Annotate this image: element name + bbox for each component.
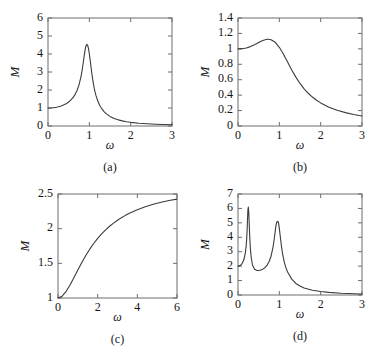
panel-caption: (b) <box>293 160 307 174</box>
plot-frame <box>58 194 177 298</box>
x-tick-label: 0 <box>45 128 51 142</box>
x-tick-label: 1 <box>276 297 282 311</box>
panel-caption: (a) <box>103 160 116 174</box>
x-axis-label: ω <box>106 138 114 152</box>
x-tick-label: 0 <box>235 297 241 311</box>
plot-area-a: 01230123456ωM(a) <box>0 0 190 177</box>
y-tick-label: 2 <box>47 220 53 234</box>
y-tick-label: 6 <box>37 10 43 24</box>
x-tick-label: 1 <box>276 128 282 142</box>
x-tick-label: 2 <box>318 128 324 142</box>
y-tick-label: 0 <box>227 287 233 301</box>
x-tick-label: 3 <box>359 297 365 311</box>
y-axis-label: M <box>197 238 212 251</box>
data-curve <box>48 44 172 124</box>
chart-panel-c: 024611.522.5ωM(c) <box>0 176 190 353</box>
y-tick-label: 3 <box>37 64 43 78</box>
y-tick-label: 2.5 <box>38 186 53 200</box>
x-axis-label: ω <box>296 307 304 321</box>
y-tick-label: 1.4 <box>218 10 233 24</box>
x-tick-label: 3 <box>169 128 175 142</box>
data-curve <box>238 207 362 294</box>
x-axis-label: ω <box>296 138 304 152</box>
plot-area-d: 012301234567ωM(d) <box>190 176 380 353</box>
y-axis-label: M <box>197 65 212 78</box>
x-tick-label: 2 <box>128 128 134 142</box>
y-tick-label: 0 <box>227 118 233 132</box>
x-tick-label: 0 <box>235 128 241 142</box>
x-tick-label: 2 <box>318 297 324 311</box>
plot-area-b: 012300.20.40.60.811.21.4ωM(b) <box>190 0 380 177</box>
panel-caption: (c) <box>111 332 124 346</box>
y-tick-label: 0 <box>37 118 43 132</box>
x-tick-label: 1 <box>86 128 92 142</box>
x-tick-label: 3 <box>359 128 365 142</box>
y-tick-label: 0.2 <box>218 102 233 116</box>
panel-caption: (d) <box>293 329 307 343</box>
x-tick-label: 6 <box>174 300 180 314</box>
x-tick-label: 2 <box>95 300 101 314</box>
y-tick-label: 1.2 <box>218 25 233 39</box>
plot-frame <box>238 18 362 126</box>
y-tick-label: 3 <box>227 243 233 257</box>
y-tick-label: 2 <box>37 82 43 96</box>
y-tick-label: 6 <box>227 200 233 214</box>
plot-area-c: 024611.522.5ωM(c) <box>0 176 190 353</box>
y-tick-label: 1 <box>47 290 53 304</box>
figure-panel-grid: 01230123456ωM(a) 012300.20.40.60.811.21.… <box>0 0 381 353</box>
y-tick-label: 7 <box>227 186 233 200</box>
y-tick-label: 4 <box>37 46 43 60</box>
y-tick-label: 1 <box>227 41 233 55</box>
x-tick-label: 4 <box>134 300 140 314</box>
x-axis-label: ω <box>113 310 121 324</box>
y-tick-label: 4 <box>227 229 233 243</box>
y-axis-label: M <box>7 65 22 78</box>
y-tick-label: 5 <box>37 28 43 42</box>
data-curve <box>238 39 362 116</box>
chart-panel-b: 012300.20.40.60.811.21.4ωM(b) <box>190 0 380 177</box>
y-tick-label: 1 <box>37 100 43 114</box>
chart-panel-d: 012301234567ωM(d) <box>190 176 380 353</box>
y-tick-label: 0.4 <box>218 87 233 101</box>
y-axis-label: M <box>17 239 32 252</box>
x-tick-label: 0 <box>55 300 61 314</box>
y-tick-label: 1.5 <box>38 255 53 269</box>
plot-frame <box>238 194 362 295</box>
y-tick-label: 5 <box>227 215 233 229</box>
y-tick-label: 0.6 <box>218 71 233 85</box>
y-tick-label: 0.8 <box>218 56 233 70</box>
y-tick-label: 2 <box>227 258 233 272</box>
plot-frame <box>48 18 172 126</box>
y-tick-label: 1 <box>227 272 233 286</box>
data-curve <box>58 199 177 298</box>
chart-panel-a: 01230123456ωM(a) <box>0 0 190 177</box>
